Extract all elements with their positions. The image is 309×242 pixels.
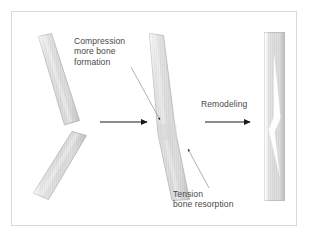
figure-canvas: Compression more bone formation Remodeli… <box>0 0 309 242</box>
label-compression: Compression more bone formation <box>74 36 125 67</box>
healing-bone <box>150 34 190 201</box>
bone-remodeling-diagram <box>0 0 309 242</box>
label-tension: Tension bone resorption <box>173 189 233 210</box>
remodeled-bone <box>265 33 285 201</box>
tension-leader <box>188 149 209 188</box>
fracture-lower-segment <box>34 132 87 200</box>
label-remodeling: Remodeling <box>201 99 247 109</box>
